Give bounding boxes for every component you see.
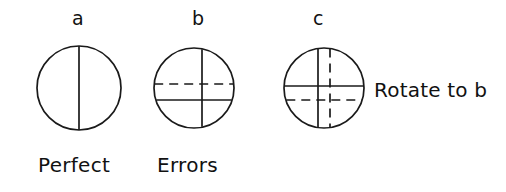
panel-label-a: a [72, 9, 84, 28]
figure-root: a b c Perfect Errors Rotate to b [0, 0, 506, 192]
panel-b-circle [154, 48, 234, 128]
panel-a-diagram [37, 46, 121, 130]
panel-label-b: b [192, 9, 204, 28]
caption-errors: Errors [157, 155, 218, 175]
panel-c-diagram [284, 48, 364, 128]
panel-label-c: c [313, 9, 323, 28]
caption-perfect: Perfect [38, 155, 110, 175]
annotation-rotate-to-b: Rotate to b [374, 80, 487, 100]
panel-b-diagram [154, 48, 234, 128]
panel-c-circle [284, 48, 364, 128]
